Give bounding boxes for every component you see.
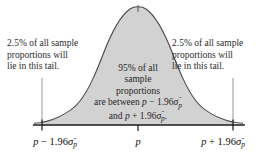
center-line-4-subscript-p-hat: ˆp	[178, 100, 182, 111]
axis-label-left-subscript-p-hat: ˆp	[73, 140, 77, 149]
axis-label-left-hat-accent: ˆ	[73, 137, 77, 144]
axis-label-left-coefficient: 1.96	[50, 136, 68, 147]
center-line-5-period: .	[165, 111, 167, 121]
center-annotation: 95% of all sample proportions are betwee…	[58, 63, 218, 125]
axis-label-mean: p	[111, 136, 165, 147]
axis-label-upper-bound: p + 1.96σˆp	[176, 136, 270, 149]
center-line-5-hat-accent: ˆ	[161, 110, 165, 117]
left-tail-line-2: proportions will	[7, 50, 78, 62]
center-line-5-subscript-p-hat: ˆp	[161, 113, 165, 124]
axis-label-lower-bound: p − 1.96σˆp	[8, 136, 102, 149]
center-line-4-prefix: are between	[94, 97, 142, 107]
axis-label-right-subscript-p-hat: ˆp	[241, 140, 245, 149]
center-line-5-prefix: and	[109, 111, 125, 121]
right-tail-line-1: 2.5% of all sample	[172, 38, 243, 50]
sampling-distribution-figure: 2.5% of all sample proportions will lie …	[0, 0, 276, 157]
center-line-3: proportions	[58, 86, 218, 97]
center-line-5-coefficient: 1.96	[140, 111, 157, 121]
center-line-4-operator: −	[147, 97, 157, 107]
center-line-4: are between p − 1.96σˆp	[58, 97, 218, 111]
axis-label-right-hat-accent: ˆ	[241, 137, 245, 144]
center-line-4-coefficient: 1.96	[157, 97, 174, 107]
right-tail-line-2: proportions will	[172, 50, 243, 62]
center-line-5: and p + 1.96σˆp.	[58, 111, 218, 125]
center-line-2: sample	[58, 74, 218, 85]
center-line-4-hat-accent: ˆ	[178, 96, 182, 103]
center-line-1: 95% of all	[58, 63, 218, 74]
axis-label-right-operator: +	[206, 136, 217, 147]
axis-label-right-coefficient: 1.96	[218, 136, 236, 147]
left-tail-line-1: 2.5% of all sample	[7, 38, 78, 50]
axis-label-mid-p: p	[135, 136, 140, 147]
axis-label-left-operator: −	[38, 136, 49, 147]
center-line-5-operator: +	[130, 111, 140, 121]
